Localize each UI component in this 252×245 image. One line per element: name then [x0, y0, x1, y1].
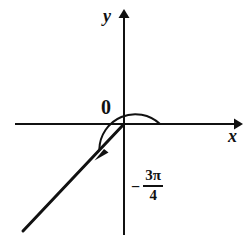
angle-measure-label: − 3π 4	[131, 168, 163, 204]
fraction-denominator: 4	[148, 187, 158, 204]
angle-arc	[99, 114, 160, 149]
minus-sign: −	[131, 179, 140, 195]
terminal-ray	[23, 124, 124, 231]
angle-fraction: 3π 4	[143, 168, 163, 204]
x-axis-label: x	[228, 127, 237, 145]
fraction-numerator: 3π	[144, 168, 162, 185]
diagram-canvas	[0, 0, 252, 245]
origin-label: 0	[101, 97, 111, 117]
angle-diagram: y x 0 − 3π 4	[0, 0, 252, 245]
y-axis-arrowhead-icon	[119, 9, 130, 18]
y-axis-label: y	[103, 7, 111, 25]
